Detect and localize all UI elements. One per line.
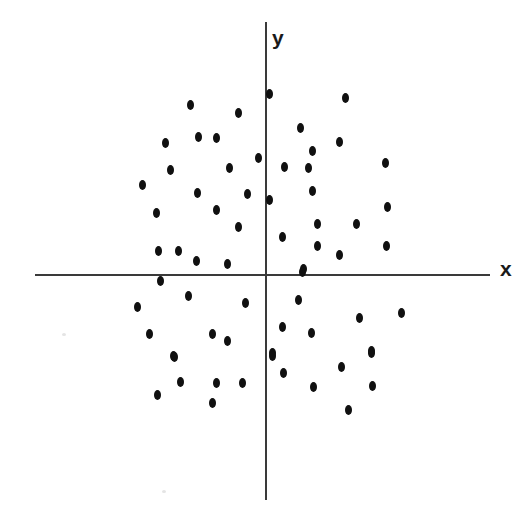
- scatter-plot-figure: x y: [0, 0, 531, 515]
- data-point: [280, 368, 287, 378]
- data-point: [308, 328, 315, 338]
- data-point: [209, 398, 216, 408]
- data-point: [314, 219, 321, 229]
- data-point: [224, 259, 231, 269]
- data-point: [209, 329, 216, 339]
- data-point: [224, 336, 231, 346]
- data-point: [266, 195, 273, 205]
- data-point: [295, 295, 302, 305]
- data-point: [297, 123, 304, 133]
- data-point: [305, 163, 312, 173]
- data-point: [342, 93, 349, 103]
- data-point: [382, 158, 389, 168]
- data-point: [336, 137, 343, 147]
- data-point: [384, 202, 391, 212]
- data-point: [194, 188, 201, 198]
- data-point: [157, 276, 164, 286]
- data-point: [398, 308, 405, 318]
- data-point: [177, 377, 184, 387]
- data-point: [235, 108, 242, 118]
- data-point: [383, 241, 390, 251]
- data-point: [281, 162, 288, 172]
- data-point: [345, 405, 352, 415]
- data-point: [279, 232, 286, 242]
- data-point: [146, 329, 153, 339]
- data-point: [299, 267, 306, 277]
- data-point: [185, 291, 192, 301]
- data-point: [309, 146, 316, 156]
- paper-speck: [62, 333, 66, 336]
- data-point: [255, 153, 262, 163]
- data-point: [309, 186, 316, 196]
- data-point: [193, 256, 200, 266]
- plot-surface: x y: [0, 0, 531, 515]
- data-point: [213, 205, 220, 215]
- data-point: [279, 322, 286, 332]
- data-point: [310, 382, 317, 392]
- data-points-layer: [0, 0, 531, 515]
- data-point: [213, 378, 220, 388]
- data-point: [171, 352, 178, 362]
- data-point: [235, 222, 242, 232]
- data-point: [266, 89, 273, 99]
- data-point: [356, 313, 363, 323]
- data-point: [239, 378, 246, 388]
- data-point: [353, 219, 360, 229]
- data-point: [213, 133, 220, 143]
- data-point: [167, 165, 174, 175]
- data-point: [242, 298, 249, 308]
- data-point: [314, 241, 321, 251]
- data-point: [338, 362, 345, 372]
- data-point: [368, 348, 375, 358]
- paper-speck: [162, 490, 166, 493]
- data-point: [269, 351, 276, 361]
- data-point: [244, 189, 251, 199]
- data-point: [139, 180, 146, 190]
- data-point: [336, 250, 343, 260]
- data-point: [226, 163, 233, 173]
- data-point: [134, 302, 141, 312]
- data-point: [153, 208, 160, 218]
- data-point: [187, 100, 194, 110]
- data-point: [195, 132, 202, 142]
- data-point: [155, 246, 162, 256]
- data-point: [154, 390, 161, 400]
- data-point: [162, 138, 169, 148]
- data-point: [175, 246, 182, 256]
- data-point: [369, 381, 376, 391]
